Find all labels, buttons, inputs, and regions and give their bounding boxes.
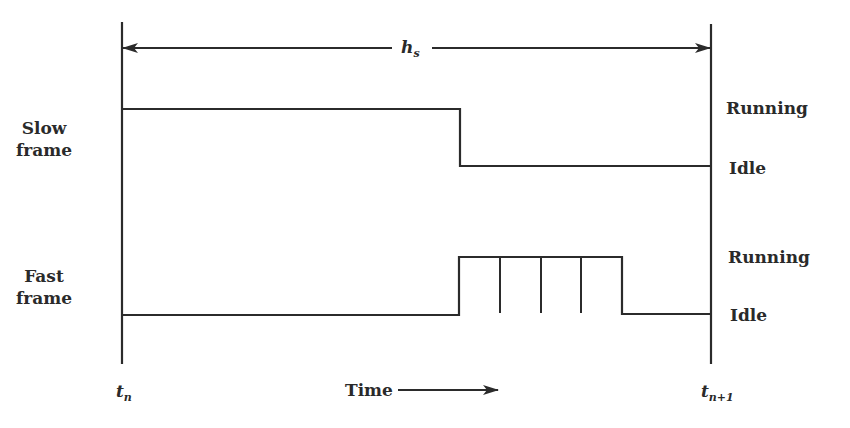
time-start-sub: n bbox=[124, 391, 132, 404]
time-end-label: tn+1 bbox=[701, 380, 734, 409]
slow-frame-signal bbox=[122, 109, 711, 166]
period-label-base: h bbox=[401, 37, 413, 57]
time-end-sub: n+1 bbox=[709, 391, 734, 404]
slow-frame-idle-label: Idle bbox=[729, 157, 766, 179]
fast-frame-signal bbox=[122, 257, 711, 315]
fast-frame-idle-label: Idle bbox=[730, 304, 767, 326]
slow-frame-label-line2: frame bbox=[14, 139, 74, 161]
fast-frame-label: Fast frame bbox=[14, 265, 74, 309]
fast-frame-label-line2: frame bbox=[14, 287, 74, 309]
time-axis-label: Time bbox=[345, 379, 393, 401]
slow-frame-label-line1: Slow bbox=[14, 117, 74, 139]
fast-frame-running-label: Running bbox=[728, 246, 810, 268]
period-label-sub: s bbox=[413, 47, 419, 60]
fast-frame-subinterval-ticks bbox=[500, 257, 581, 313]
slow-frame-label: Slow frame bbox=[14, 117, 74, 161]
time-start-label: tn bbox=[116, 380, 132, 409]
fast-frame-label-line1: Fast bbox=[14, 265, 74, 287]
slow-frame-running-label: Running bbox=[726, 97, 808, 119]
period-label: hs bbox=[401, 36, 420, 65]
time-start-base: t bbox=[116, 381, 124, 401]
timing-diagram bbox=[0, 0, 850, 428]
time-end-base: t bbox=[701, 381, 709, 401]
